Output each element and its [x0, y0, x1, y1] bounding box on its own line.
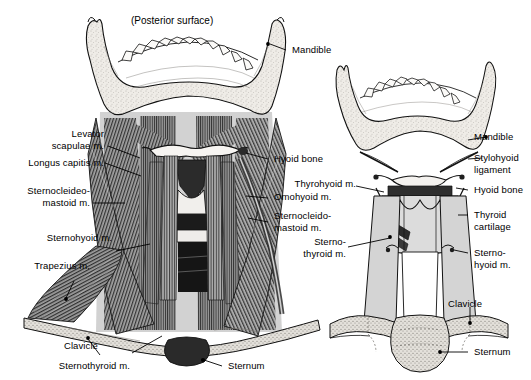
label-clavicle-right: Clavicle	[448, 298, 510, 310]
label-sternohyoid-right: Sterno- hyoid m.	[474, 247, 528, 270]
label-sternocleidomastoid-left: Sternocleideo- mastoid m.	[2, 185, 90, 208]
label-clavicle-left: Clavicle	[34, 340, 98, 352]
label-sternum-left: Sternum	[228, 360, 290, 372]
label-thyrohyoid: Thyrohyoid m.	[268, 178, 356, 190]
label-thyroid-cartilage: Thyroid cartilage	[474, 209, 528, 232]
midline-laryngeal-structures	[175, 160, 208, 292]
label-stylohyoid-ligament: Stylohyoid ligament	[474, 152, 530, 175]
label-omohyoid: Omohyoid m.	[274, 191, 358, 203]
label-levator-scapulae: Levator scapulae m.	[8, 128, 104, 151]
sternum-shape-right	[391, 315, 450, 372]
label-sternothyroid-right: Sterno- thyroid m.	[280, 236, 346, 259]
label-mandible-left: Mandible	[292, 44, 362, 56]
label-sternum-right: Sternum	[474, 346, 531, 358]
label-hyoid-bone-left: Hyoid bone	[274, 153, 352, 165]
label-sternocleidomastoid-right: Sternocleido- mastoid m.	[274, 210, 358, 233]
label-longus-capitis: Longus capitis m.	[4, 157, 104, 169]
figure-caption: (Posterior surface)	[131, 15, 261, 26]
thyrohyoid-muscle	[388, 186, 452, 196]
label-trapezius: Trapezius m.	[4, 260, 90, 272]
label-mandible-right: Mandible	[474, 131, 531, 143]
label-sternothyroid-left: Sternothyroid m.	[14, 360, 130, 372]
label-sternohyoid-left: Sternohyoid m.	[4, 232, 112, 244]
label-hyoid-bone-right: Hyoid bone	[474, 184, 531, 196]
